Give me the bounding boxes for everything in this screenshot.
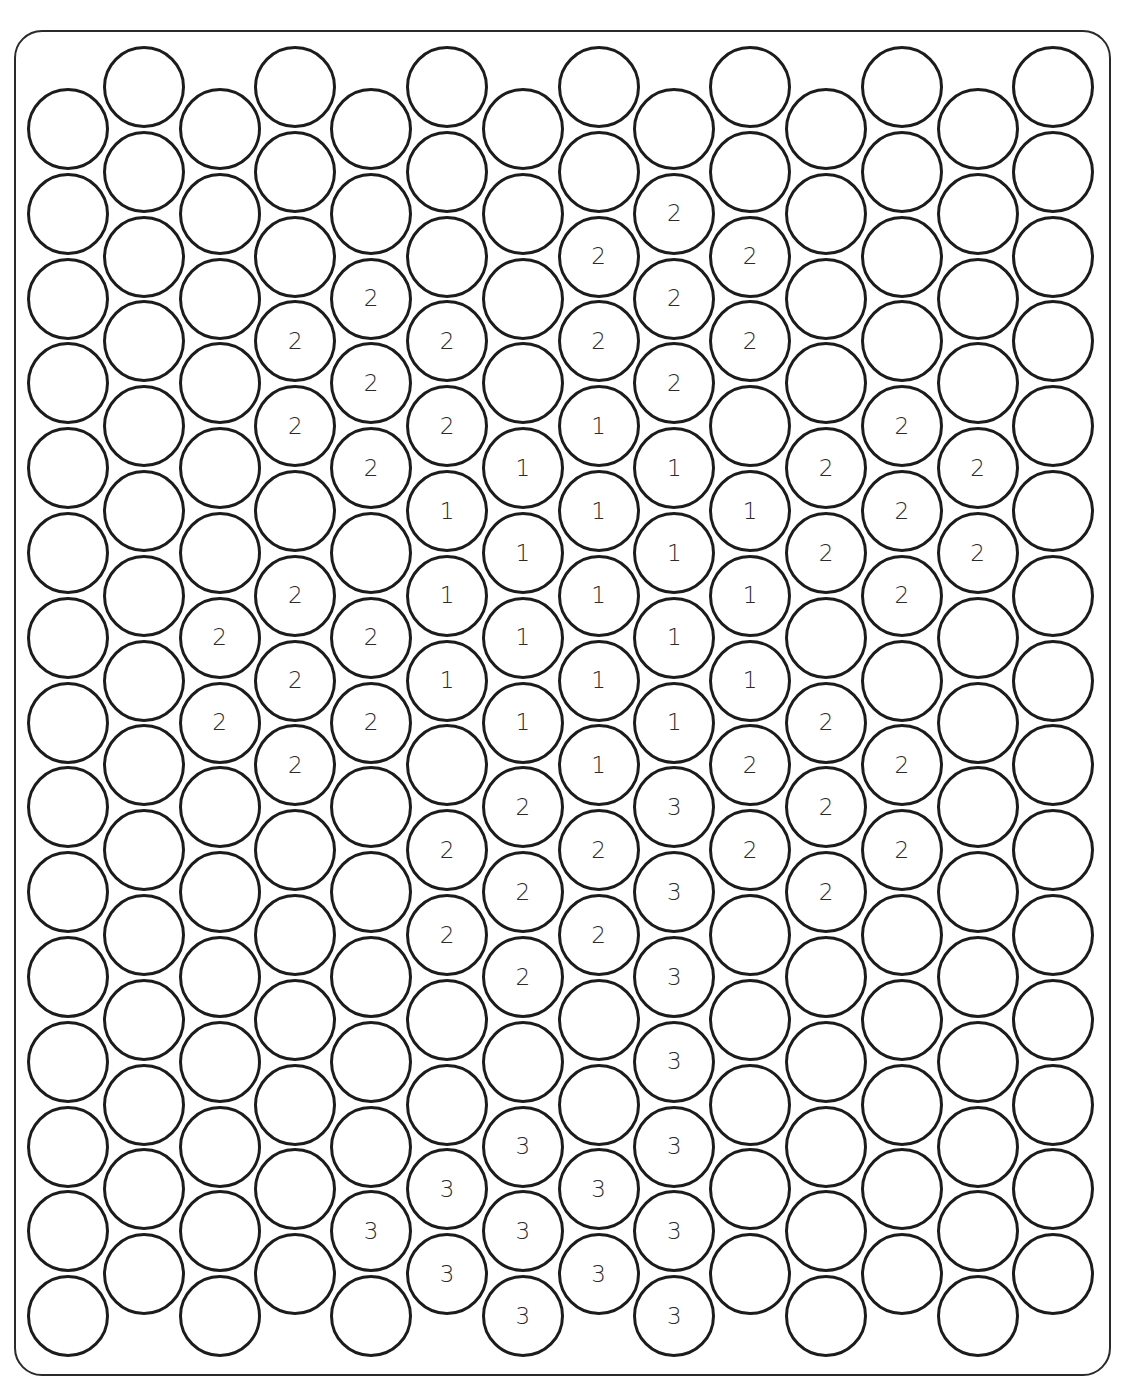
bubble-cell[interactable]: 2 — [330, 258, 412, 340]
bubble-cell[interactable] — [330, 512, 412, 594]
bubble-cell[interactable] — [330, 1106, 412, 1188]
bubble-cell[interactable] — [861, 131, 943, 213]
bubble-cell[interactable] — [254, 809, 336, 891]
bubble-cell[interactable] — [785, 88, 867, 170]
bubble-cell[interactable]: 1 — [558, 724, 640, 806]
bubble-cell[interactable] — [103, 131, 185, 213]
bubble-cell[interactable] — [103, 979, 185, 1061]
bubble-cell[interactable]: 2 — [179, 597, 261, 679]
bubble-cell[interactable] — [27, 173, 109, 255]
bubble-cell[interactable]: 2 — [330, 682, 412, 764]
bubble-cell[interactable] — [937, 851, 1019, 933]
bubble-cell[interactable] — [103, 640, 185, 722]
bubble-cell[interactable] — [785, 258, 867, 340]
bubble-cell[interactable] — [937, 1275, 1019, 1357]
bubble-cell[interactable] — [1012, 216, 1094, 298]
bubble-cell[interactable] — [330, 1021, 412, 1103]
bubble-cell[interactable] — [937, 766, 1019, 848]
bubble-cell[interactable]: 2 — [785, 766, 867, 848]
bubble-cell[interactable] — [785, 1275, 867, 1357]
bubble-cell[interactable]: 2 — [709, 300, 791, 382]
bubble-cell[interactable] — [1012, 470, 1094, 552]
bubble-cell[interactable] — [179, 258, 261, 340]
bubble-cell[interactable]: 3 — [633, 1021, 715, 1103]
bubble-cell[interactable] — [103, 46, 185, 128]
bubble-cell[interactable] — [103, 385, 185, 467]
bubble-cell[interactable] — [937, 342, 1019, 424]
bubble-cell[interactable]: 1 — [482, 597, 564, 679]
bubble-cell[interactable]: 3 — [482, 1106, 564, 1188]
bubble-cell[interactable] — [330, 88, 412, 170]
bubble-cell[interactable] — [179, 512, 261, 594]
bubble-cell[interactable]: 2 — [937, 512, 1019, 594]
bubble-cell[interactable] — [103, 724, 185, 806]
bubble-cell[interactable] — [937, 936, 1019, 1018]
bubble-cell[interactable]: 3 — [633, 936, 715, 1018]
bubble-cell[interactable] — [179, 1106, 261, 1188]
bubble-cell[interactable] — [406, 46, 488, 128]
bubble-cell[interactable] — [103, 470, 185, 552]
bubble-cell[interactable] — [785, 936, 867, 1018]
bubble-cell[interactable] — [937, 258, 1019, 340]
bubble-cell[interactable] — [254, 46, 336, 128]
bubble-cell[interactable] — [254, 216, 336, 298]
bubble-cell[interactable]: 1 — [558, 385, 640, 467]
bubble-cell[interactable]: 2 — [785, 427, 867, 509]
bubble-cell[interactable] — [406, 1064, 488, 1146]
bubble-cell[interactable]: 2 — [633, 258, 715, 340]
bubble-cell[interactable] — [861, 300, 943, 382]
bubble-cell[interactable] — [27, 342, 109, 424]
bubble-cell[interactable]: 2 — [482, 936, 564, 1018]
bubble-cell[interactable]: 2 — [785, 512, 867, 594]
bubble-cell[interactable]: 2 — [179, 682, 261, 764]
bubble-cell[interactable] — [406, 979, 488, 1061]
bubble-cell[interactable]: 3 — [633, 1275, 715, 1357]
bubble-cell[interactable] — [330, 766, 412, 848]
bubble-cell[interactable] — [482, 342, 564, 424]
bubble-cell[interactable] — [330, 1275, 412, 1357]
bubble-cell[interactable]: 3 — [406, 1148, 488, 1230]
bubble-cell[interactable] — [1012, 1064, 1094, 1146]
bubble-cell[interactable]: 3 — [406, 1233, 488, 1315]
bubble-cell[interactable]: 2 — [558, 216, 640, 298]
bubble-cell[interactable]: 1 — [406, 640, 488, 722]
bubble-cell[interactable]: 1 — [482, 512, 564, 594]
bubble-cell[interactable] — [27, 682, 109, 764]
bubble-cell[interactable]: 2 — [861, 809, 943, 891]
bubble-cell[interactable] — [785, 1190, 867, 1272]
bubble-cell[interactable] — [179, 766, 261, 848]
bubble-cell[interactable]: 2 — [406, 894, 488, 976]
bubble-cell[interactable] — [330, 851, 412, 933]
bubble-cell[interactable] — [937, 1106, 1019, 1188]
bubble-cell[interactable] — [179, 427, 261, 509]
bubble-cell[interactable] — [482, 173, 564, 255]
bubble-cell[interactable] — [27, 427, 109, 509]
bubble-cell[interactable] — [861, 1064, 943, 1146]
bubble-cell[interactable]: 1 — [709, 640, 791, 722]
bubble-cell[interactable]: 1 — [406, 555, 488, 637]
bubble-cell[interactable]: 2 — [861, 724, 943, 806]
bubble-cell[interactable] — [179, 342, 261, 424]
bubble-cell[interactable]: 3 — [482, 1190, 564, 1272]
bubble-cell[interactable] — [27, 597, 109, 679]
bubble-cell[interactable] — [103, 1148, 185, 1230]
bubble-cell[interactable]: 2 — [330, 427, 412, 509]
bubble-cell[interactable] — [1012, 555, 1094, 637]
bubble-cell[interactable] — [27, 766, 109, 848]
bubble-cell[interactable] — [179, 851, 261, 933]
bubble-cell[interactable] — [406, 216, 488, 298]
bubble-cell[interactable] — [103, 809, 185, 891]
bubble-cell[interactable] — [103, 1233, 185, 1315]
bubble-cell[interactable]: 1 — [482, 682, 564, 764]
bubble-cell[interactable] — [27, 258, 109, 340]
bubble-cell[interactable]: 2 — [330, 342, 412, 424]
bubble-cell[interactable] — [1012, 131, 1094, 213]
bubble-cell[interactable]: 2 — [709, 809, 791, 891]
bubble-cell[interactable] — [633, 88, 715, 170]
bubble-cell[interactable] — [709, 1148, 791, 1230]
bubble-cell[interactable]: 2 — [861, 385, 943, 467]
bubble-cell[interactable]: 1 — [558, 470, 640, 552]
bubble-cell[interactable]: 2 — [406, 300, 488, 382]
bubble-cell[interactable] — [558, 1064, 640, 1146]
bubble-cell[interactable]: 2 — [785, 682, 867, 764]
